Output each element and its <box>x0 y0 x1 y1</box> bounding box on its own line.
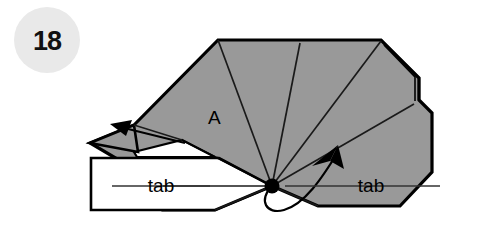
tab-label-right: tab <box>358 175 384 196</box>
tab-label-left: tab <box>148 175 174 196</box>
step-badge: 18 <box>14 7 80 73</box>
step-badge-number: 18 <box>33 26 62 56</box>
origami-step-diagram: 18 <box>0 0 491 227</box>
panel-label-a: A <box>208 107 221 128</box>
